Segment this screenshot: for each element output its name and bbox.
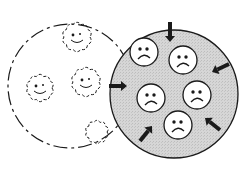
face-outline [164, 111, 192, 139]
diagram-canvas [0, 0, 251, 170]
face-outline [183, 81, 211, 109]
eye [35, 85, 38, 88]
eye [81, 79, 84, 82]
sad-face-icon [164, 111, 192, 139]
eye [172, 120, 175, 123]
eye [138, 47, 141, 50]
eye [145, 93, 148, 96]
eye [42, 84, 44, 86]
eye [79, 33, 81, 35]
eye [191, 90, 194, 93]
face-outline [169, 46, 197, 74]
eye [177, 55, 180, 58]
eye [184, 55, 187, 58]
eye [72, 34, 75, 37]
face-outline [137, 84, 165, 112]
sad-face-icon [137, 84, 165, 112]
sad-circle [109, 22, 238, 158]
eye [198, 90, 201, 93]
eye [152, 93, 155, 96]
eye [179, 120, 182, 123]
face-outline [130, 38, 158, 66]
eye [88, 78, 90, 80]
sad-face-icon [169, 46, 197, 74]
sad-face-icon [130, 38, 158, 66]
eye [145, 47, 148, 50]
sad-face-icon [183, 81, 211, 109]
